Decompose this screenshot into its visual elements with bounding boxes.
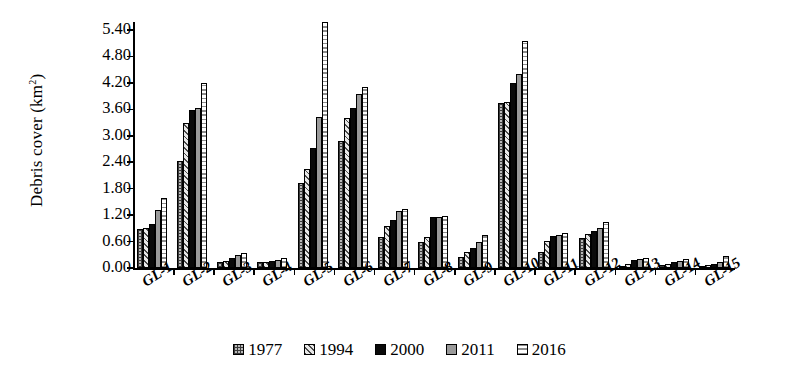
legend-swatch-2011 bbox=[446, 344, 457, 355]
legend-label-1977: 1977 bbox=[248, 341, 282, 358]
legend-label-1994: 1994 bbox=[319, 341, 353, 358]
legend-swatch-1994 bbox=[304, 344, 315, 355]
y-axis-tick-label: 5.40 bbox=[61, 21, 131, 38]
y-axis-tick-label: 1.20 bbox=[61, 206, 131, 223]
y-axis-tick-label: 3.00 bbox=[61, 127, 131, 144]
y-axis-tick-label: 4.20 bbox=[61, 74, 131, 91]
legend-label-2000: 2000 bbox=[390, 341, 424, 358]
y-axis-title-paren: ) bbox=[27, 74, 46, 80]
bar-group bbox=[177, 83, 207, 268]
bar bbox=[201, 83, 207, 268]
bar-group bbox=[298, 22, 328, 268]
y-axis-tick-label: 0.60 bbox=[61, 233, 131, 250]
legend-swatch-2000 bbox=[375, 344, 386, 355]
y-axis-tick-label: 4.80 bbox=[61, 47, 131, 64]
chart-legend: 19771994200020112016 bbox=[0, 341, 799, 358]
y-axis-tick-label: 0.00 bbox=[61, 259, 131, 276]
legend-swatch-2016 bbox=[517, 344, 528, 355]
legend-item-1977[interactable]: 1977 bbox=[233, 341, 282, 358]
bar bbox=[362, 87, 368, 268]
bar-group bbox=[498, 41, 528, 268]
y-axis-tick-label: 1.80 bbox=[61, 180, 131, 197]
legend-label-2011: 2011 bbox=[461, 341, 494, 358]
y-axis-tick-label: 3.60 bbox=[61, 100, 131, 117]
bar-group bbox=[378, 209, 408, 269]
legend-item-2000[interactable]: 2000 bbox=[375, 341, 424, 358]
bar-group bbox=[137, 198, 167, 268]
legend-label-2016: 2016 bbox=[532, 341, 566, 358]
y-axis-title-superscript: 2 bbox=[27, 80, 38, 85]
bar bbox=[322, 22, 328, 268]
legend-item-1994[interactable]: 1994 bbox=[304, 341, 353, 358]
legend-item-2016[interactable]: 2016 bbox=[517, 341, 566, 358]
bar bbox=[522, 41, 528, 268]
debris-cover-bar-chart: Debris cover (km2) 0.000.601.201.802.403… bbox=[0, 0, 799, 377]
y-axis-tick-label: 2.40 bbox=[61, 153, 131, 170]
y-axis-title: Debris cover (km2) bbox=[27, 25, 48, 255]
y-axis-line bbox=[133, 22, 135, 270]
legend-item-2011[interactable]: 2011 bbox=[446, 341, 494, 358]
bar-group bbox=[338, 87, 368, 268]
legend-swatch-1977 bbox=[233, 344, 244, 355]
y-axis-title-text: Debris cover (km bbox=[27, 85, 46, 207]
plot-area: 0.000.601.201.802.403.003.604.204.805.40 bbox=[133, 22, 735, 270]
